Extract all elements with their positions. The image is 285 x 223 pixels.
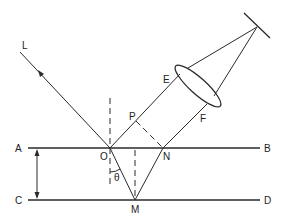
ray-N-to-lens xyxy=(163,104,207,148)
label-P: P xyxy=(129,111,136,122)
thickness-arrow-down-icon xyxy=(35,192,40,199)
perpendicular-PN xyxy=(136,121,163,148)
label-B: B xyxy=(264,143,271,154)
label-L: L xyxy=(22,40,28,51)
thickness-arrow-up-icon xyxy=(35,149,40,156)
label-C: C xyxy=(15,195,22,206)
ray-lens-to-mirror-upper xyxy=(188,27,257,68)
label-theta: θ xyxy=(114,172,120,183)
ray-O-to-lens xyxy=(110,74,180,148)
incident-ray xyxy=(20,52,110,148)
label-M: M xyxy=(131,204,139,215)
label-O: O xyxy=(100,151,108,162)
diagram-canvas: L A B C D O M N P E F θ xyxy=(0,0,285,223)
label-N: N xyxy=(163,151,170,162)
ray-lens-to-mirror-lower xyxy=(214,27,257,96)
reflected-ray-MN xyxy=(135,148,163,200)
lens xyxy=(170,60,225,112)
label-E: E xyxy=(163,74,170,85)
label-F: F xyxy=(200,113,206,124)
mirror xyxy=(244,13,270,38)
label-A: A xyxy=(15,143,22,154)
label-D: D xyxy=(264,195,271,206)
